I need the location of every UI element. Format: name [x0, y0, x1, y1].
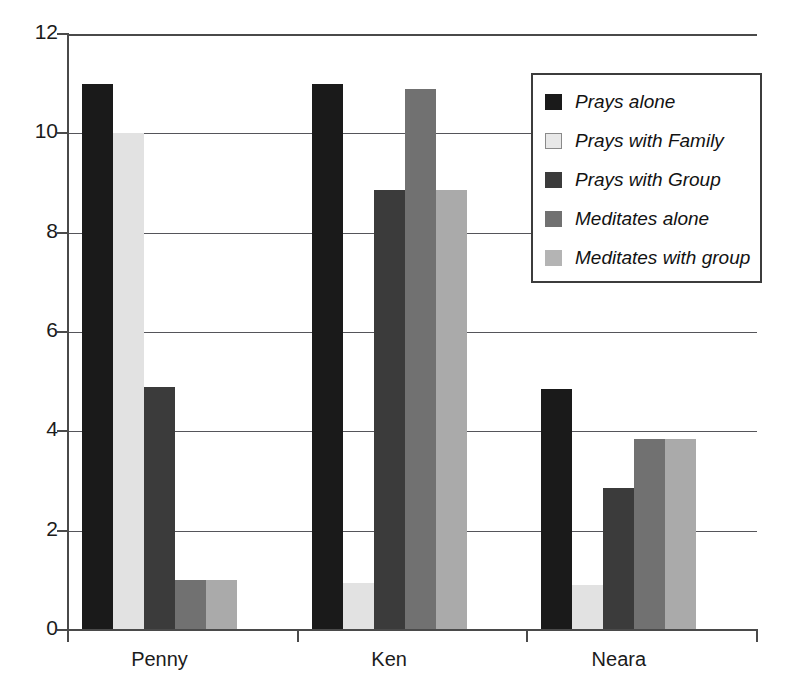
bar: [634, 439, 665, 630]
bar: [436, 190, 467, 630]
bar: [541, 389, 572, 630]
y-tick-label: 4: [18, 417, 58, 441]
y-tick-mark: [57, 331, 68, 333]
x-axis-group-label: Neara: [539, 648, 699, 671]
y-tick-label: 6: [18, 318, 58, 342]
legend-swatch-icon: [545, 250, 562, 266]
y-tick-label: 12: [18, 20, 58, 44]
y-tick-mark: [57, 232, 68, 234]
x-tick-mark: [297, 631, 299, 642]
x-tick-mark: [526, 631, 528, 642]
y-tick-mark: [57, 430, 68, 432]
bar: [343, 583, 374, 630]
x-axis-group-label: Penny: [80, 648, 240, 671]
bar: [665, 439, 696, 630]
legend-swatch-icon: [545, 94, 562, 110]
y-tick-mark: [57, 33, 68, 35]
legend-swatch-icon: [545, 172, 562, 188]
bar: [144, 387, 175, 630]
legend: Prays alonePrays with FamilyPrays with G…: [531, 73, 762, 283]
bar: [603, 488, 634, 630]
bar-chart: 024681012 PennyKenNeara Prays alonePrays…: [0, 0, 786, 699]
legend-item[interactable]: Meditates with group: [545, 241, 750, 275]
x-axis-line: [67, 629, 758, 631]
y-tick-mark: [57, 132, 68, 134]
y-tick-label: 10: [18, 119, 58, 143]
legend-item[interactable]: Prays alone: [545, 85, 675, 119]
legend-swatch-icon: [545, 133, 562, 149]
bar: [572, 585, 603, 630]
y-tick-mark: [57, 530, 68, 532]
x-axis-group-label: Ken: [309, 648, 469, 671]
bar: [374, 190, 405, 630]
legend-label: Prays with Group: [575, 169, 721, 191]
bar: [206, 580, 237, 630]
legend-swatch-icon: [545, 211, 562, 227]
legend-item[interactable]: Prays with Group: [545, 163, 721, 197]
y-tick-label: 0: [18, 616, 58, 640]
bar: [113, 133, 144, 630]
legend-label: Meditates with group: [575, 247, 750, 269]
bar: [405, 89, 436, 630]
bar: [82, 84, 113, 630]
legend-item[interactable]: Prays with Family: [545, 124, 724, 158]
y-tick-label: 8: [18, 219, 58, 243]
bar: [175, 580, 206, 630]
legend-label: Prays with Family: [575, 130, 724, 152]
x-tick-mark: [67, 631, 69, 642]
legend-label: Prays alone: [575, 91, 675, 113]
x-tick-mark: [756, 631, 758, 642]
legend-item[interactable]: Meditates alone: [545, 202, 709, 236]
bar: [312, 84, 343, 630]
legend-label: Meditates alone: [575, 208, 709, 230]
y-tick-label: 2: [18, 517, 58, 541]
